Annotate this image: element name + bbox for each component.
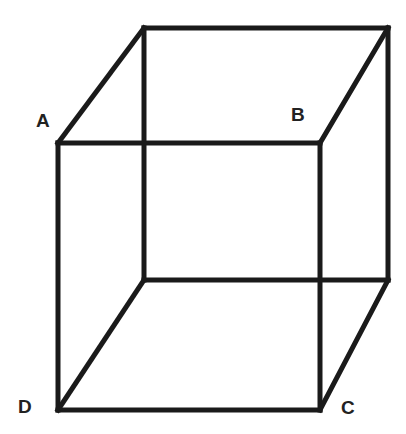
vertex-label-b: B xyxy=(291,105,305,124)
edge-C-back xyxy=(320,280,388,410)
cube-diagram: A B C D xyxy=(0,0,406,434)
edge-D-back xyxy=(58,280,144,410)
edge-A-back xyxy=(58,28,144,143)
edge-B-back xyxy=(320,28,388,143)
vertex-label-a: A xyxy=(36,111,50,130)
cube-wireframe xyxy=(0,0,406,434)
vertex-label-d: D xyxy=(18,397,32,416)
vertex-label-c: C xyxy=(341,398,355,417)
